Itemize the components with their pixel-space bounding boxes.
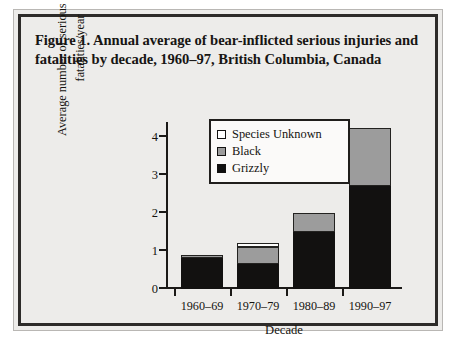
figure-title: Figure 1. Annual average of bear-inflict…: [35, 31, 431, 70]
legend-label-species-unknown: Species Unknown: [232, 128, 322, 140]
y-axis-title: Average number of serious injuries and f…: [54, 0, 90, 136]
bar-segment-grizzly: [293, 232, 335, 289]
y-tick-1: [159, 249, 166, 251]
x-tick-label-1990-97: 1990–97: [338, 299, 402, 314]
x-tick-1: [230, 289, 232, 296]
bar-segment-species-unknown: [237, 243, 279, 247]
y-tick-label-3: 3: [142, 169, 158, 182]
x-tick-3: [342, 289, 344, 296]
gray-square-icon: [217, 147, 226, 156]
y-tick-4: [159, 135, 166, 137]
bar-segment-grizzly: [237, 264, 279, 289]
y-tick-label-4: 4: [142, 131, 158, 144]
black-square-icon: [217, 164, 226, 173]
white-square-icon: [217, 130, 226, 139]
x-axis-title: Decade: [166, 323, 402, 338]
legend-item-black: Black: [217, 143, 341, 160]
bar-segment-black: [181, 255, 223, 258]
y-tick-label-0: 0: [142, 283, 158, 296]
legend-item-species-unknown: Species Unknown: [217, 126, 341, 143]
y-tick-3: [159, 173, 166, 175]
x-tick-0: [174, 289, 176, 296]
y-axis-title-line2: fatalities/year: [72, 0, 90, 136]
bar-segment-grizzly: [349, 186, 391, 289]
y-tick-label-2: 2: [142, 207, 158, 220]
x-tick-label-1980-89: 1980–89: [282, 299, 346, 314]
figure-inner-border: Figure 1. Annual average of bear-inflict…: [18, 14, 438, 326]
bar-segment-black: [349, 128, 391, 187]
bar-segment-grizzly: [181, 258, 223, 289]
y-tick-0: [159, 287, 166, 289]
bar-segment-black: [293, 213, 335, 232]
y-tick-2: [159, 211, 166, 213]
chart-legend: Species Unknown Black Grizzly: [209, 119, 350, 184]
figure-frame: Figure 1. Annual average of bear-inflict…: [13, 9, 443, 331]
legend-label-black: Black: [232, 145, 261, 157]
y-tick-label-1: 1: [142, 245, 158, 258]
x-tick-label-1960-69: 1960–69: [170, 299, 234, 314]
x-tick-label-1970-79: 1970–79: [226, 299, 290, 314]
y-axis-title-line1: Average number of serious injuries and: [55, 0, 69, 136]
chart-plot-area: 0 1 2 3 4 1960–69 1970–79 1980–89 1990–9…: [166, 122, 402, 289]
legend-label-grizzly: Grizzly: [232, 162, 269, 174]
legend-item-grizzly: Grizzly: [217, 160, 341, 177]
y-axis-line: [166, 122, 168, 289]
bar-segment-black: [237, 247, 279, 264]
x-tick-2: [286, 289, 288, 296]
